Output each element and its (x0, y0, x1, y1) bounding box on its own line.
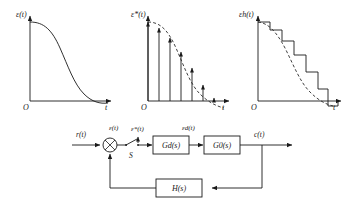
input-label: r(t) (76, 130, 87, 139)
block-gd-label: Gd(s) (162, 141, 181, 150)
chart1-ylabel: ε(t) (16, 10, 27, 19)
chart3-xlabel: t (333, 103, 336, 112)
chart2-impulses (148, 22, 214, 101)
chart1-curve (30, 22, 108, 103)
chart2-xlabel: t (222, 103, 225, 112)
chart-held-error: εh(t) O t (239, 10, 341, 112)
chart-sampled-error: ε*(t) O t (131, 10, 229, 112)
output-label: c(t) (254, 130, 265, 139)
sampler-pivot (125, 144, 127, 146)
chart2-ylabel: ε*(t) (131, 10, 146, 19)
chart3-envelope (258, 22, 333, 106)
block-diagram: r(t) S ε(t) ε*(t) Gd(s) εd(t) G0(s) c(t) (72, 124, 292, 197)
chart3-ylabel: εh(t) (239, 10, 254, 19)
chart-continuous-error: ε(t) O t (16, 10, 111, 112)
chart2-origin-label: O (141, 103, 147, 112)
chart1-xlabel: t (105, 103, 108, 112)
figure-svg: ε(t) O t ε*(t) O t εh(t) O t (0, 0, 354, 210)
sampler-label: S (129, 151, 133, 160)
block-h-label: H(s) (171, 184, 187, 193)
sampler-blade (126, 139, 137, 145)
chart3-origin-label: O (251, 103, 257, 112)
error-signal-label: ε(t) (109, 124, 119, 132)
block-g0-label: G0(s) (213, 141, 232, 150)
figure-root: ε(t) O t ε*(t) O t εh(t) O t (0, 0, 354, 210)
sampler-switch (125, 137, 139, 146)
chart3-staircase (258, 22, 338, 106)
chart1-origin-label: O (23, 103, 29, 112)
digital-error-signal-label: εd(t) (182, 124, 196, 132)
sampled-error-signal-label: ε*(t) (131, 125, 145, 133)
